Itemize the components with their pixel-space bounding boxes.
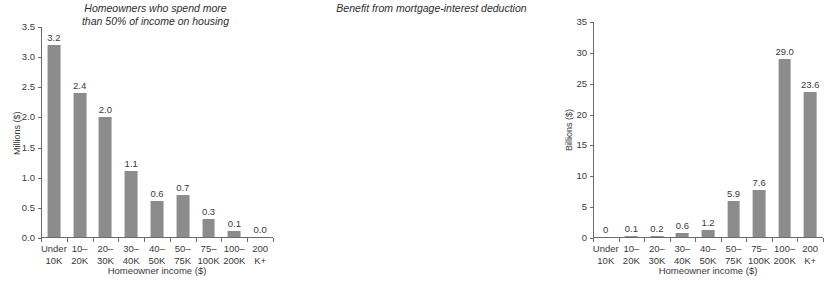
y-axis-tick-label-left: 0.0 — [22, 232, 35, 243]
bar — [73, 93, 86, 237]
bar-slot: 0.1 — [221, 27, 247, 237]
bar — [625, 236, 638, 237]
x-axis-line-right — [593, 237, 823, 238]
bar-value-label: 0.0 — [253, 224, 266, 235]
bar-slot: 2.4 — [67, 27, 93, 237]
x-axis-tick — [823, 238, 824, 242]
bar — [202, 219, 215, 237]
x-axis-category-label: 200 K+ — [244, 243, 276, 266]
bar-value-label: 1.1 — [125, 158, 138, 169]
y-axis-tick-label-left: 1.0 — [22, 172, 35, 183]
bar — [676, 233, 689, 237]
x-axis-tick — [170, 238, 171, 242]
x-axis-tick — [41, 238, 42, 242]
bar-slot: 0.6 — [144, 27, 170, 237]
x-axis-tick — [746, 238, 747, 242]
bar — [228, 231, 241, 237]
bar-value-label: 0.6 — [150, 188, 163, 199]
y-axis-tick-label-right: 35 — [576, 16, 587, 27]
bar-slot: 0.3 — [196, 27, 222, 237]
y-axis-tick-label-left: 3.0 — [22, 51, 35, 62]
bar — [176, 195, 189, 237]
y-axis-tick-label-right: 30 — [576, 47, 587, 58]
x-axis-tick — [221, 238, 222, 242]
bar — [702, 230, 715, 237]
bar-value-label: 5.9 — [727, 188, 740, 199]
bar-value-label: 0 — [603, 224, 608, 235]
bar-value-label: 29.0 — [775, 46, 794, 57]
x-axis-tick — [619, 238, 620, 242]
bar-series-left: 3.22.42.01.10.60.70.30.10.0 — [41, 27, 273, 237]
bar — [47, 45, 60, 237]
bar — [650, 236, 663, 237]
bar-value-label: 0.3 — [202, 206, 215, 217]
x-axis-tick — [144, 238, 145, 242]
bar-value-label: 0.6 — [676, 220, 689, 231]
bar-value-label: 7.6 — [752, 177, 765, 188]
bar — [753, 190, 766, 237]
bar-value-label: 2.4 — [73, 80, 86, 91]
bar — [99, 117, 112, 237]
chart-title-right: Benefit from mortgage-interest deduction — [316, 2, 547, 15]
bar-value-label: 2.0 — [99, 104, 112, 115]
bar-slot: 0.6 — [670, 22, 696, 237]
bar-value-label: 3.2 — [47, 32, 60, 43]
chart-title-left: Homeowners who spend more than 50% of in… — [40, 2, 271, 27]
bar — [727, 201, 740, 237]
bar-slot: 0 — [593, 22, 619, 237]
y-axis-tick-label-right: 25 — [576, 78, 587, 89]
y-axis-tick-label-right: 10 — [576, 170, 587, 181]
bar-value-label: 23.6 — [801, 79, 820, 90]
y-axis-tick-label-left: 0.5 — [22, 202, 35, 213]
x-axis-tick — [273, 238, 274, 242]
y-axis-tick-label-left: 2.0 — [22, 111, 35, 122]
x-axis-category-label: 200 K+ — [794, 243, 826, 266]
bar-slot: 23.6 — [797, 22, 823, 237]
x-axis-title-left: Homeowner income ($) — [41, 265, 273, 276]
y-axis-tick-label-left: 2.5 — [22, 81, 35, 92]
bar-value-label: 0.1 — [625, 223, 638, 234]
bar — [778, 59, 791, 237]
x-axis-tick — [644, 238, 645, 242]
bar-slot: 29.0 — [772, 22, 798, 237]
x-axis-tick — [721, 238, 722, 242]
x-axis-tick — [247, 238, 248, 242]
chart-panel-mortgage-interest-deduction: Benefit from mortgage-interest deduction… — [276, 0, 551, 281]
plot-area-left: 3.22.42.01.10.60.70.30.10.0 0.00.51.01.5… — [41, 27, 273, 238]
bar-value-label: 0.2 — [650, 223, 663, 234]
bar-slot: 1.2 — [695, 22, 721, 237]
plot-area-right: 00.10.20.61.25.97.629.023.6 051015202530… — [593, 22, 823, 238]
x-axis-tick — [670, 238, 671, 242]
y-axis-tick-label-right: 0 — [582, 232, 587, 243]
bar-slot: 0.7 — [170, 27, 196, 237]
bar-slot: 2.0 — [93, 27, 119, 237]
x-axis-tick — [593, 238, 594, 242]
x-axis-tick — [797, 238, 798, 242]
x-axis-tick — [118, 238, 119, 242]
x-axis-tick — [67, 238, 68, 242]
y-axis-label-right: Billions ($) — [564, 109, 574, 151]
bar-slot: 0.0 — [247, 27, 273, 237]
bar-slot: 7.6 — [746, 22, 772, 237]
y-axis-tick-label-right: 20 — [576, 109, 587, 120]
bar-slot: 0.1 — [619, 22, 645, 237]
y-axis-tick-label-right: 15 — [576, 139, 587, 150]
bar-value-label: 0.7 — [176, 182, 189, 193]
chart-panel-homeowners-housing-cost: Homeowners who spend more than 50% of in… — [0, 0, 275, 281]
x-axis-tick — [93, 238, 94, 242]
y-axis-tick-label-right: 5 — [582, 201, 587, 212]
bar-series-right: 00.10.20.61.25.97.629.023.6 — [593, 22, 823, 237]
x-axis-line-left — [41, 237, 273, 238]
bar — [151, 201, 164, 237]
x-axis-title-right: Homeowner income ($) — [593, 265, 823, 276]
bar — [804, 92, 817, 237]
y-axis-tick-label-left: 1.5 — [22, 142, 35, 153]
x-axis-tick — [196, 238, 197, 242]
bar-slot: 5.9 — [721, 22, 747, 237]
bar-slot: 0.2 — [644, 22, 670, 237]
y-axis-label-left: Millions ($) — [12, 111, 22, 155]
bar — [125, 171, 138, 237]
bar-value-label: 0.1 — [228, 218, 241, 229]
bar-value-label: 1.2 — [701, 217, 714, 228]
x-axis-tick — [695, 238, 696, 242]
